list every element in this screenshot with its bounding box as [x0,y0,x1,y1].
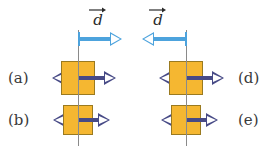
displacement-label-right: d [148,6,168,28]
right-reference-line-overlay-e [186,105,187,135]
displacement-label-left: d [88,6,108,28]
force-arrow-right-d [186,71,224,85]
physics-figure-work-energy: d d (a) (b) (d) [0,0,274,146]
displacement-left-arrowhead [110,32,122,46]
vector-overbar-icon [88,6,108,13]
displacement-arrow-right [142,32,186,46]
left-reference-line-overlay-b [78,105,79,135]
displacement-arrow-left [78,32,122,46]
force-arrow-right-b-head [98,113,110,127]
force-arrow-right-e-head [206,113,218,127]
force-arrow-right-d-shaft [186,76,212,80]
displacement-left-shaft [79,37,111,41]
force-arrow-right-d-head [212,71,224,85]
panel-label-e: (e) [238,113,259,128]
panel-label-a: (a) [8,71,29,86]
force-arrow-right-b [78,113,110,127]
vector-overbar-icon [148,6,168,13]
displacement-right-origin-tick [185,32,187,46]
panel-label-b: (b) [8,113,29,128]
panel-label-d: (d) [238,71,259,86]
force-arrow-right-a-head [104,71,116,85]
displacement-label-right-glyph: d [148,13,168,28]
displacement-right-shaft [153,37,185,41]
force-arrow-right-b-shaft [78,118,98,122]
displacement-label-left-glyph: d [88,13,108,28]
force-arrow-right-e-shaft [186,118,206,122]
right-reference-line-overlay-d [186,61,187,95]
force-arrow-right-e [186,113,218,127]
force-arrow-right-a-shaft [78,76,104,80]
left-reference-line-overlay-a [78,61,79,95]
force-arrow-right-a [78,71,116,85]
